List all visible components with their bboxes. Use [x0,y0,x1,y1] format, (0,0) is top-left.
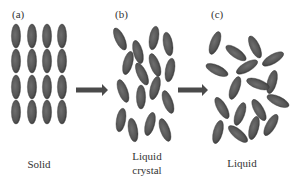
molecule-solid [57,49,66,73]
molecule-liquid-crystal [136,85,145,109]
molecule-liquid [224,42,249,63]
molecule-solid [27,24,36,48]
molecule-solid [27,100,36,124]
molecule-liquid [204,61,230,79]
molecule-liquid [246,34,264,60]
molecule-solid [27,49,36,73]
molecule-solid [11,49,20,73]
molecule-liquid [232,101,249,127]
molecule-solid [42,75,51,99]
molecule-solid [11,100,20,124]
molecule-liquid [212,95,232,120]
panel-label-b: (b) [115,8,128,21]
molecule-liquid-crystal [133,61,151,87]
molecule-liquid-crystal [114,107,127,132]
molecule-liquid [227,75,244,101]
caption-liquid-crystal-line1: Liquid [132,150,162,162]
panel-label-c: (c) [211,8,224,21]
molecule-liquid-crystal [115,78,132,104]
liquid-crystal-molecules [111,25,177,142]
molecule-liquid [264,69,279,95]
molecule-solid [42,100,51,124]
molecule-solid [42,24,51,48]
solid-molecules [11,24,66,124]
molecule-liquid [207,30,224,56]
molecule-liquid [246,115,261,141]
molecule-liquid-crystal [111,26,129,52]
molecule-solid [57,24,66,48]
molecule-liquid [226,123,250,145]
caption-liquid-crystal-line2: crystal [132,164,161,176]
molecule-solid [27,75,36,99]
molecule-liquid [210,119,225,145]
molecule-liquid [234,57,259,77]
caption-solid: Solid [27,158,51,170]
molecule-solid [57,75,66,99]
molecule-liquid-crystal [163,57,176,82]
molecule-liquid-crystal [161,31,174,56]
arrow-b-to-c-icon [178,84,208,96]
molecule-liquid [260,49,285,69]
molecule-liquid-crystal [147,52,164,78]
arrow-a-to-b-icon [76,84,108,96]
molecule-solid [57,100,66,124]
molecule-liquid-crystal [157,117,174,143]
molecule-solid [11,24,20,48]
molecule-solid [42,49,51,73]
molecule-liquid [265,92,291,110]
molecule-liquid-crystal [160,89,177,115]
caption-liquid: Liquid [227,157,257,169]
liquid-molecules [204,30,291,145]
molecule-liquid-crystal [126,117,139,142]
molecule-liquid-crystal [142,111,157,137]
molecule-liquid-crystal [147,25,160,50]
phase-diagram: (a) (b) (c) Solid Liquid crystal Liquid [0,0,295,191]
molecule-liquid-crystal [120,50,135,76]
panel-label-a: (a) [12,8,25,21]
molecule-solid [11,75,20,99]
molecule-liquid [245,76,271,93]
molecule-liquid-crystal [147,75,162,101]
